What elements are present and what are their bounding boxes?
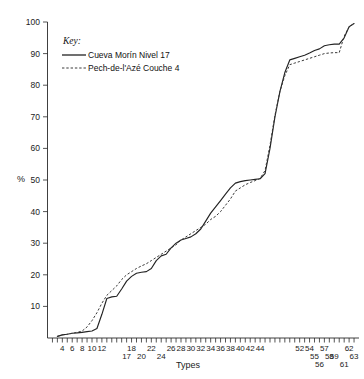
legend-label-pech-de-laze: Pech-de-l'Azé Couche 4 [88,63,180,73]
x-axis-title: Types [176,360,201,370]
y-tick-label: 30 [31,238,41,248]
y-tick-label: 60 [31,143,41,153]
x-tick-label: 63 [350,352,359,361]
x-tick-label: 10 [88,344,97,353]
x-tick-label: 6 [70,344,75,353]
cumulative-percentage-line-chart: 102030405060708090100 468101218222628303… [0,0,364,379]
x-tick-label: 59 [330,352,339,361]
x-tick-label: 34 [206,344,215,353]
x-tick-label: 26 [167,344,176,353]
x-axis-tick-labels: 4681012182226283032343638404244525457621… [60,344,359,369]
y-axis-title: % [17,174,25,184]
x-tick-label: 20 [137,352,146,361]
x-tick-label: 44 [256,344,265,353]
x-tick-label: 4 [60,344,65,353]
x-tick-label: 8 [80,344,85,353]
x-tick-label: 56 [315,360,324,369]
x-tick-label: 61 [340,360,349,369]
y-tick-label: 90 [31,49,41,59]
y-tick-label: 80 [31,80,41,90]
x-tick-label: 52 [295,344,304,353]
y-tick-label: 20 [31,270,41,280]
chart-container: 102030405060708090100 468101218222628303… [0,0,364,379]
y-tick-label: 70 [31,112,41,122]
legend: Key: Cueva Morín Nivel 17 Pech-de-l'Azé … [62,36,180,73]
x-tick-label: 24 [157,352,166,361]
y-tick-label: 40 [31,207,41,217]
legend-title: Key: [62,36,81,46]
x-tick-label: 30 [186,344,195,353]
y-tick-label: 10 [31,301,41,311]
x-tick-label: 40 [236,344,245,353]
y-tick-label: 100 [26,17,40,27]
y-axis-ticks [43,22,48,306]
x-tick-label: 28 [177,344,186,353]
y-axis-tick-labels: 102030405060708090100 [26,17,40,311]
y-tick-label: 50 [31,175,41,185]
x-tick-label: 36 [216,344,225,353]
x-tick-label: 22 [147,344,156,353]
x-tick-label: 12 [97,344,106,353]
legend-label-cueva-morin: Cueva Morín Nivel 17 [88,50,170,60]
x-tick-label: 17 [122,352,131,361]
x-axis-ticks [52,338,354,343]
x-tick-label: 42 [246,344,255,353]
x-tick-label: 32 [196,344,205,353]
x-tick-label: 38 [226,344,235,353]
